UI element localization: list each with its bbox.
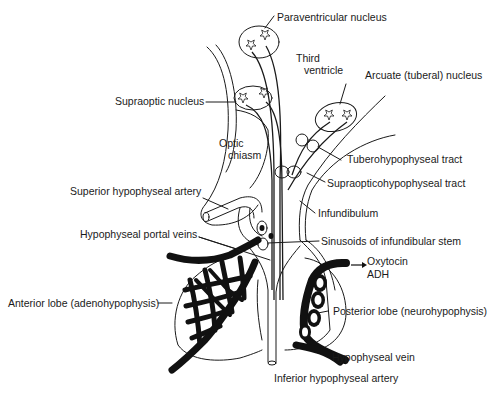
label-hypophyseal-vein: Hypophyseal vein (332, 351, 415, 363)
neuron-star-icon (324, 110, 334, 120)
superior-hypophyseal-artery (203, 197, 262, 245)
label-superior-hypophyseal-artery: Superior hypophyseal artery (70, 185, 201, 197)
label-anterior-lobe: Anterior lobe (adenohypophysis) (8, 297, 159, 309)
label-optic-chiasm-line2: chiasm (228, 149, 261, 161)
hormone-release-arrow-icon (351, 262, 367, 268)
neuron-star-icon (342, 110, 352, 120)
label-inferior-hypophyseal-artery: Inferior hypophyseal artery (274, 372, 398, 384)
neuron-star-icon (238, 93, 248, 103)
neuron-star-icon (246, 40, 256, 50)
posterior-lobe (305, 258, 346, 350)
paraventricular-nucleus (239, 26, 279, 58)
label-supraopticohypophyseal-tract: Supraopticohypophyseal tract (327, 177, 465, 189)
label-paraventricular-nucleus: Paraventricular nucleus (277, 11, 387, 23)
neuron-star-icon (260, 30, 270, 40)
pituitary-diagram (0, 0, 499, 395)
label-third-ventricle-line1: Third (296, 52, 320, 64)
sinusoids (257, 221, 274, 250)
label-supraoptic-nucleus: Supraoptic nucleus (115, 95, 204, 107)
label-adh: ADH (367, 268, 389, 280)
label-tuberohypophyseal-tract: Tuberohypophyseal tract (347, 153, 462, 165)
label-posterior-lobe: Posterior lobe (neurohypophysis) (333, 305, 487, 317)
label-infundibulum: Infundibulum (318, 207, 378, 219)
ventricle-wall (201, 45, 258, 225)
label-optic-chiasm-line1: Optic (219, 137, 244, 149)
supraoptic-nucleus (234, 86, 272, 110)
label-oxytocin: Oxytocin (367, 255, 408, 267)
label-third-ventricle-line2: ventricle (304, 64, 343, 76)
label-sinusoids-infundibular-stem: Sinusoids of infundibular stem (321, 235, 461, 247)
label-arcuate-nucleus: Arcuate (tuberal) nucleus (365, 69, 482, 81)
label-hypophyseal-portal-veins: Hypophyseal portal veins (80, 228, 197, 240)
